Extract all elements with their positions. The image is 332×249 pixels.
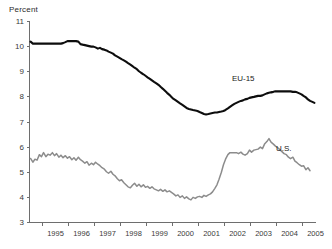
series-line-u-s (31, 139, 311, 200)
x-tick-label: 2002 (229, 229, 246, 238)
y-tick-label: 10 (15, 42, 24, 51)
x-tick-label: 1997 (99, 229, 116, 238)
series-annotations: EU-15U.S. (232, 74, 292, 152)
x-tick-label: 2003 (255, 229, 272, 238)
x-tick-label: 1996 (73, 229, 90, 238)
x-tick-label: 2005 (307, 229, 324, 238)
y-tick-label: 9 (20, 67, 25, 76)
x-tick-label: 1995 (47, 229, 64, 238)
y-tick-label: 6 (20, 143, 25, 152)
x-tick-label: 1998 (125, 229, 142, 238)
y-tick-label: 4 (20, 193, 25, 202)
y-tick-label: 7 (20, 118, 25, 127)
series-label-u-s: U.S. (276, 144, 292, 153)
y-tick-label: 11 (16, 17, 25, 26)
y-tick-label: 3 (20, 218, 25, 227)
x-tick-label: 2000 (177, 229, 194, 238)
x-tick-label: 2001 (203, 229, 220, 238)
x-tick-label: 1999 (151, 229, 168, 238)
x-tick-label: 2004 (281, 229, 298, 238)
chart-series (31, 41, 315, 200)
chart-plot-area: 34567891011 1995199619971998199920002001… (0, 0, 332, 249)
y-axis-ticks: 34567891011 (15, 17, 29, 227)
series-line-eu-15 (31, 41, 315, 114)
x-axis-ticks: 1995199619971998199920002001200220032004… (43, 223, 324, 238)
y-tick-label: 8 (20, 92, 25, 101)
series-label-eu-15: EU-15 (232, 74, 255, 83)
unemployment-rate-chart: Percent 34567891011 19951996199719981999… (0, 0, 332, 249)
y-tick-label: 5 (20, 168, 25, 177)
